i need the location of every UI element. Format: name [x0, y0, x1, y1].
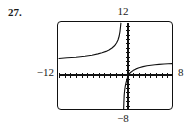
- curve-left-branch: [59, 23, 121, 58]
- calculator-screen: [57, 21, 173, 110]
- calculator-graph-figure: 27.: [0, 0, 193, 129]
- problem-number-label: 27.: [8, 6, 22, 18]
- x-min-label: −12: [22, 66, 54, 78]
- graph-plot-area: [58, 22, 173, 110]
- axes-group: [59, 23, 173, 110]
- y-min-label: −8: [108, 112, 138, 124]
- x-max-label: 8: [178, 66, 192, 78]
- y-max-label: 12: [108, 5, 138, 17]
